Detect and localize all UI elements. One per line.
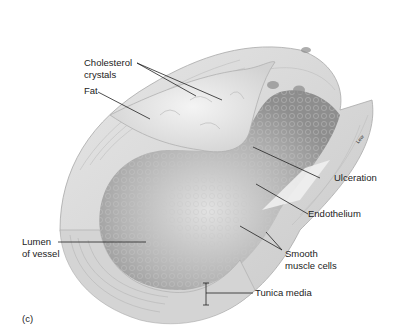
label-tunica-media: Tunica media [255, 287, 312, 299]
vessel-illustration [0, 0, 401, 336]
label-smooth-muscle-cells: Smooth muscle cells [285, 248, 337, 272]
panel-label: (c) [22, 313, 33, 325]
label-cholesterol-crystals: Cholesterol crystals [84, 57, 132, 81]
label-lumen-of-vessel: Lumen of vessel [22, 236, 60, 260]
label-ulceration: Ulceration [334, 172, 377, 184]
label-fat: Fat [84, 85, 98, 97]
label-endothelium: Endothelium [308, 208, 361, 220]
